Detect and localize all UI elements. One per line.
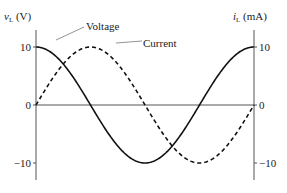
right-axis-title: iL (mA) [233, 10, 267, 24]
right-tick-label: −10 [259, 157, 277, 169]
current-leader-line [116, 41, 142, 43]
current-annotation: Current [143, 37, 177, 49]
right-tick-label: 0 [259, 99, 265, 111]
left-tick-label: −10 [14, 157, 32, 169]
voltage-annotation: Voltage [86, 20, 120, 32]
voltage-leader-line [56, 27, 84, 40]
left-tick-label: 10 [20, 41, 32, 53]
left-tick-label: 0 [26, 99, 32, 111]
left-axis-title: vL (V) [4, 10, 32, 24]
chart: 100−10100−10vL (V)iL (mA)VoltageCurrent [0, 0, 287, 193]
right-tick-label: 10 [259, 41, 271, 53]
